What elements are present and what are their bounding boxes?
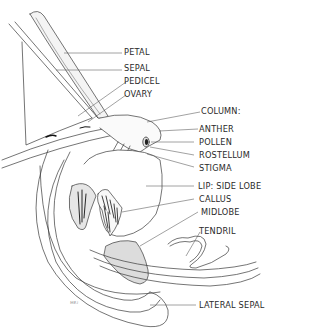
column-shape — [100, 115, 161, 152]
midlobe-shape — [104, 241, 148, 284]
label-ovary: OVARY — [124, 89, 152, 99]
label-stigma: STIGMA — [199, 163, 232, 173]
label-anther: ANTHER — [199, 124, 234, 134]
label-lateral-sepal: LATERAL SEPAL — [199, 300, 265, 310]
artist-signature: ᴍᴇᴊ — [70, 299, 78, 305]
label-pollen: POLLEN — [199, 137, 232, 147]
leader-column — [147, 112, 200, 122]
label-midlobe: MIDLOBE — [201, 207, 240, 217]
label-pedicel: PEDICEL — [124, 76, 160, 86]
label-rostellum: ROSTELLUM — [199, 150, 250, 160]
leader-tendril — [186, 232, 200, 256]
label-tendril: TENDRIL — [199, 226, 236, 236]
tendril-shape — [168, 236, 229, 268]
label-callus: CALLUS — [199, 194, 231, 204]
label-petal: PETAL — [124, 47, 150, 57]
pollen-shape — [145, 139, 148, 145]
label-sepal: SEPAL — [124, 63, 150, 73]
label-lip-side-lobe: LIP: SIDE LOBE — [198, 181, 261, 191]
leader-anther — [159, 129, 198, 131]
leader-rostellum — [150, 147, 194, 155]
lip-side-lobe-shape — [84, 150, 162, 236]
label-column: COLUMN: — [201, 106, 241, 116]
